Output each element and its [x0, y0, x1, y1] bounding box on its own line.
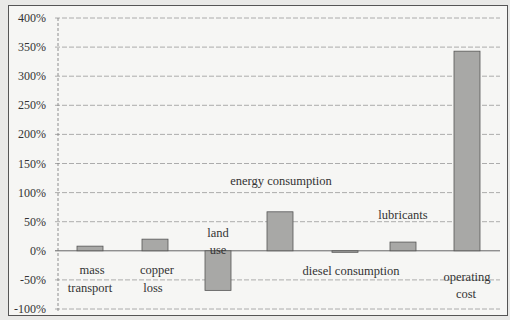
y-tick-label: 150%: [18, 157, 46, 171]
gridlines: [55, 18, 500, 309]
bar-mass-transport: [77, 246, 103, 251]
bar-diesel-consumption: [332, 251, 358, 253]
label-mass: mass: [80, 263, 105, 277]
bar-energy-consumption: [267, 212, 293, 251]
bar-lubricants: [390, 242, 416, 251]
y-tick-label: -50%: [20, 273, 46, 287]
label-copper: copper: [140, 263, 175, 277]
label-lubricants: lubricants: [378, 208, 427, 222]
y-tick-label: 100%: [18, 186, 46, 200]
label-cost: cost: [456, 287, 477, 301]
bar-copper-loss: [142, 239, 168, 251]
label-operating: operating: [443, 270, 491, 284]
y-tick-label: 300%: [18, 69, 46, 83]
bars: [77, 51, 480, 290]
y-tick-label: 350%: [18, 40, 46, 54]
y-tick-label: -100%: [14, 302, 46, 316]
y-tick-label: 400%: [18, 11, 46, 25]
label-diesel-consumption: diesel consumption: [303, 264, 401, 278]
label-energy-consumption: energy consumption: [230, 174, 332, 188]
bar-chart: 400%350%300%250%200%150%100%50%0%-50%-10…: [0, 0, 510, 320]
bar-operating-cost: [454, 51, 480, 251]
y-tick-label: 50%: [24, 215, 46, 229]
label-land: land: [207, 226, 229, 240]
y-tick-label: 250%: [18, 98, 46, 112]
label-use: use: [210, 243, 227, 257]
y-tick-label: 200%: [18, 127, 46, 141]
y-axis-ticks: 400%350%300%250%200%150%100%50%0%-50%-10…: [14, 11, 46, 316]
y-tick-label: 0%: [30, 244, 46, 258]
label-transport: transport: [68, 281, 113, 295]
label-loss: loss: [143, 281, 163, 295]
